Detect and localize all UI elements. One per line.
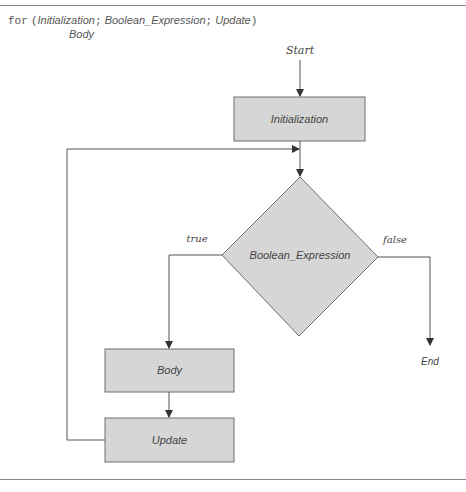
true-branch-arrow [169,255,222,348]
body-label: Body [157,364,184,376]
bottom-rule [0,479,466,480]
initialization-label: Initialization [271,113,328,125]
flowchart: Start Initialization Boolean_Expression … [0,0,466,492]
false-branch-arrow [378,257,430,345]
condition-label: Boolean_Expression [250,249,351,261]
body-box: Body [105,349,234,392]
update-label: Update [152,434,187,446]
end-label: End [421,356,439,367]
start-label: Start [286,44,315,57]
update-box: Update [105,418,234,462]
false-label: false [382,234,407,245]
condition-diamond: Boolean_Expression [222,177,378,336]
initialization-box: Initialization [234,97,365,141]
true-label: true [186,233,207,244]
